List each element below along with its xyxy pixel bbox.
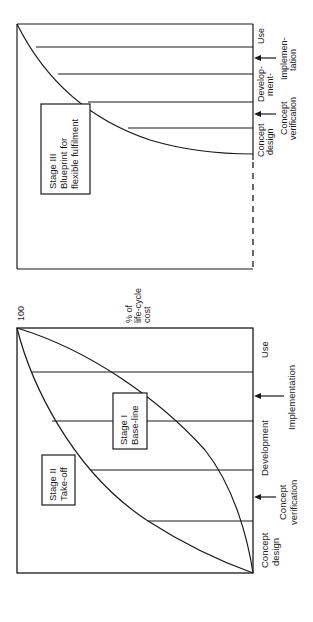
svg-text:Use: Use: [259, 341, 270, 358]
y-axis-label: % of life-cycle cost: [124, 288, 152, 323]
svg-text:ment-: ment-: [265, 73, 275, 96]
bottom-label-implementation: Implementation: [286, 365, 297, 430]
bottom-label-use: Use: [259, 341, 270, 358]
svg-text:verification: verification: [288, 480, 299, 525]
stage-1-line-2: Base-line: [129, 405, 140, 445]
top-label-concept-design: Concept design: [256, 123, 275, 157]
stage-1-line-1: Stage I: [118, 415, 129, 445]
stage-3-box: Stage III Blueprint for flexible fulfilm…: [41, 104, 90, 194]
top-panel: Stage III Blueprint for flexible fulfilm…: [17, 24, 298, 269]
svg-text:Development: Development: [259, 420, 270, 476]
top-label-implementation: Implemen- tation: [279, 37, 298, 80]
stage-1-curve: [17, 328, 253, 573]
life-cycle-cost-diagram: Stage III Blueprint for flexible fulfilm…: [0, 0, 313, 622]
bottom-label-development: Development: [259, 420, 270, 476]
bottom-panel-frame: [17, 328, 253, 573]
top-label-concept-verification: Concept verification: [279, 97, 298, 140]
stage-2-box: Stage II Take-off: [42, 455, 75, 505]
top-label-development: Develop- ment-: [256, 66, 275, 102]
stage-2-curve: [17, 328, 253, 573]
stage-3-line-1: Stage III: [47, 154, 58, 189]
bottom-label-concept-design: Concept design: [259, 532, 281, 568]
stage-2-line-2: Take-off: [58, 467, 69, 501]
bottom-panel: Stage I Base-line Stage II Take-off Use: [17, 328, 299, 573]
bottom-label-concept-verification: Concept verification: [277, 480, 299, 525]
stage-3-line-2: Blueprint for: [58, 138, 69, 189]
top-arrow-implementation: [254, 55, 276, 61]
svg-text:Implementation: Implementation: [286, 365, 297, 430]
svg-text:Use: Use: [256, 28, 266, 44]
svg-text:cost: cost: [142, 306, 152, 323]
stage-1-box: Stage I Base-line: [113, 393, 147, 449]
stage-3-line-3: flexible fulfilment: [69, 118, 80, 189]
stage-2-line-1: Stage II: [47, 468, 58, 501]
bottom-arrow-implementation: [254, 393, 284, 399]
svg-text:Concept: Concept: [277, 484, 288, 520]
bottom-arrow-concept-verification: [254, 494, 276, 500]
svg-text:verification: verification: [288, 97, 298, 140]
top-arrow-concept-verification: [254, 111, 276, 117]
y-max-label: 100: [16, 306, 26, 321]
top-label-use: Use: [256, 28, 266, 44]
svg-text:design: design: [265, 128, 275, 155]
svg-text:tation: tation: [288, 49, 298, 71]
svg-text:Concept: Concept: [259, 532, 270, 568]
svg-text:100: 100: [16, 306, 26, 321]
svg-text:design: design: [270, 538, 281, 566]
